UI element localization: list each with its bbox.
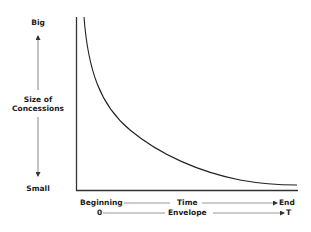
x-row2-middle: Envelope	[168, 209, 207, 217]
x-row1-middle: Time	[177, 199, 198, 207]
y-title-line1: Size of	[24, 96, 52, 104]
y-bottom-label: Small	[26, 185, 49, 193]
x-row2-start: 0	[97, 209, 102, 217]
y-title-line2: Concessions	[12, 105, 64, 113]
concession-curve	[84, 17, 297, 185]
x-row1-start: Beginning	[80, 199, 123, 207]
y-top-label: Big	[31, 19, 45, 27]
diagram-canvas	[0, 0, 311, 232]
x-row1-end: End	[279, 199, 295, 207]
x-row2-end: T	[286, 209, 291, 217]
